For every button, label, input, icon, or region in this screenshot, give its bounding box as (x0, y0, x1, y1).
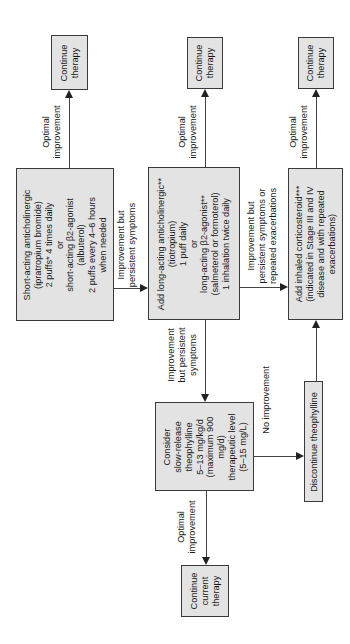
inhaled-corticosteroid-text: Add inhaled corticosteroid*** (indicated… (294, 186, 337, 302)
discontinue-theophylline-box: Discontinue theophylline (304, 381, 323, 502)
text-line: persistent symptoms (127, 203, 138, 287)
text-line: therapy (70, 44, 81, 81)
continue-therapy-text-3: Continue therapy (305, 45, 327, 82)
arrow-up-icon (201, 89, 209, 97)
text-line: Discontinue theophylline (308, 392, 319, 492)
short-acting-text: Short-acting anticholinergic (ipratropiu… (22, 189, 109, 300)
text-line: symptoms (187, 327, 198, 382)
text-line: Continue (194, 45, 205, 82)
text-line: improvement (52, 105, 63, 158)
text-line: improvement (299, 105, 310, 158)
text-line: 5–13 mg/kg/d (194, 413, 205, 480)
text-line: (maximum 900 (205, 413, 216, 480)
text-line: Short-acting anticholinergic (22, 189, 33, 300)
text-line: Add inhaled corticosteroid*** (294, 186, 305, 302)
text-line: or (54, 189, 65, 300)
text-line: slow-release (172, 413, 183, 480)
continue-therapy-box-1: Continue therapy (51, 35, 88, 90)
connector-line (240, 287, 280, 288)
continue-therapy-box-2: Continue therapy (187, 37, 223, 89)
arrow-up-icon (65, 90, 73, 98)
connector-line (316, 97, 317, 168)
text-line: mg/d) (215, 413, 226, 480)
text-line: Continue (59, 44, 70, 81)
continue-current-therapy-box: Continue current therapy (181, 565, 229, 617)
text-line: theophylline (183, 413, 194, 480)
text-line: No improvement (261, 366, 272, 433)
text-line: therapy (316, 45, 327, 82)
short-acting-bronchodilator-box: Short-acting anticholinergic (ipratropiu… (16, 168, 114, 321)
connector-line (69, 98, 70, 168)
text-line: current (200, 573, 211, 610)
arrow-right-icon (296, 452, 304, 460)
theophylline-text: Consider slow-release theophylline 5–13 … (161, 413, 248, 480)
text-line: therapy (210, 573, 221, 610)
continue-therapy-text-1: Continue therapy (59, 44, 81, 81)
discontinue-text: Discontinue theophylline (308, 392, 319, 492)
connector-line (206, 491, 207, 557)
text-line: or (189, 177, 200, 309)
connector-line (316, 328, 317, 381)
text-line: Improvement but (116, 203, 127, 287)
text-line: short-acting β2-agonist (65, 189, 76, 300)
text-line: Optimal (176, 500, 187, 553)
arrow-right-icon (280, 283, 288, 291)
text-line: disease and with repeated (316, 186, 327, 302)
text-line: 1 puff daily (178, 177, 189, 309)
arrow-up-icon (312, 320, 320, 328)
text-line: Add long-acting anticholinergic** (156, 177, 167, 309)
continue-current-text: Continue current therapy (189, 573, 222, 610)
text-line: improvement (187, 500, 198, 553)
text-line: (tiotropium) (167, 177, 178, 309)
text-line: Continue (305, 45, 316, 82)
arrow-right-icon (140, 284, 148, 292)
text-line: Optimal (41, 105, 52, 158)
text-line: repeated exacerbations (267, 188, 278, 284)
text-line: (albuterol) (76, 189, 87, 300)
text-line: Continue (189, 573, 200, 610)
text-line: exacerbations) (326, 186, 337, 302)
arrow-down-icon (202, 557, 210, 565)
arrow-down-icon (201, 394, 209, 402)
text-line: 2 puffs every 4–6 hours (87, 189, 98, 300)
text-line: therapeutic level (226, 413, 237, 480)
text-line: 2 puffs* 4 times daily (43, 189, 54, 300)
connector-line (114, 288, 140, 289)
continue-therapy-box-3: Continue therapy (298, 37, 334, 89)
arrow-up-icon (312, 89, 320, 97)
text-line: (5–15 mg/L) (237, 413, 248, 480)
inhaled-corticosteroid-box: Add inhaled corticosteroid*** (indicated… (288, 168, 343, 320)
text-line: (salmeterol or formoterol) (210, 177, 221, 309)
text-line: therapy (205, 45, 216, 82)
text-line: persistent symptoms or (257, 188, 268, 284)
text-line: 1 inhalation twice daily (221, 177, 232, 309)
text-line: Optimal (177, 105, 188, 158)
text-line: improvement (188, 105, 199, 158)
connector-line (254, 456, 296, 457)
long-acting-text: Add long-acting anticholinergic** (tiotr… (156, 177, 232, 309)
text-line: (indicated in Stage III and IV (305, 186, 316, 302)
text-line: long-acting β2-agonist** (199, 177, 210, 309)
text-line: when needed (98, 189, 109, 300)
connector-line (205, 320, 206, 394)
theophylline-box: Consider slow-release theophylline 5–13 … (155, 402, 254, 491)
text-line: Improvement (166, 327, 177, 382)
text-line: (ipratropium bromide) (32, 189, 43, 300)
text-line: Improvement but (246, 188, 257, 284)
long-acting-bronchodilator-box: Add long-acting anticholinergic** (tiotr… (148, 167, 240, 320)
continue-therapy-text-2: Continue therapy (194, 45, 216, 82)
text-line: Consider (161, 413, 172, 480)
text-line: but persistent (177, 327, 188, 382)
connector-line (205, 97, 206, 167)
text-line: Optimal (288, 105, 299, 158)
